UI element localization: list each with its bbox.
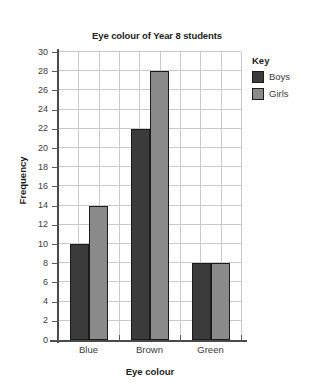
y-axis-tick-label: 10 [24, 240, 48, 249]
legend: Key BoysGirls [252, 55, 310, 105]
legend-label: Boys [269, 71, 290, 83]
y-axis-tick-label: 8 [24, 259, 48, 268]
legend-label: Girls [269, 88, 289, 100]
x-axis-tick-label: Blue [59, 344, 119, 355]
y-axis-tick-label: 0 [24, 336, 48, 345]
x-axis-tick [180, 335, 181, 342]
y-axis-tick [52, 167, 58, 168]
y-axis-tick-label: 24 [24, 105, 48, 114]
y-axis-tick-label: 18 [24, 163, 48, 172]
bar [192, 263, 211, 340]
y-axis-line [57, 49, 59, 343]
y-axis-tick [52, 71, 58, 72]
y-axis-tick [52, 244, 58, 245]
y-axis-tick [52, 282, 58, 283]
y-axis-tick [52, 321, 58, 322]
y-axis-tick [52, 206, 58, 207]
y-axis-tick-label: 4 [24, 297, 48, 306]
bar [150, 71, 169, 340]
plot-area [58, 52, 241, 340]
legend-entries: BoysGirls [252, 71, 310, 100]
y-axis-tick [52, 225, 58, 226]
gridline-vertical [180, 52, 181, 340]
gridline-vertical [241, 52, 242, 340]
x-axis-line [50, 340, 247, 342]
bar-chart-figure: Eye colour of Year 8 students Frequency … [0, 0, 314, 391]
legend-entry: Boys [252, 71, 310, 83]
y-axis-tick-label: 2 [24, 316, 48, 325]
x-axis-tick-label: Green [181, 344, 241, 355]
y-axis-tick [52, 110, 58, 111]
y-axis-tick-label: 30 [24, 48, 48, 57]
y-axis-tick [52, 263, 58, 264]
gridline-horizontal [58, 51, 241, 52]
y-axis-tick-label: 12 [24, 220, 48, 229]
y-axis-tick-label: 26 [24, 86, 48, 95]
y-axis-tick [52, 52, 58, 53]
bar [89, 206, 108, 340]
x-axis-tick-label: Brown [120, 344, 180, 355]
bar [70, 244, 89, 340]
legend-swatch [252, 88, 264, 100]
y-axis-tick-label: 14 [24, 201, 48, 210]
bar [131, 129, 150, 340]
y-axis-tick-label: 20 [24, 144, 48, 153]
chart-title: Eye colour of Year 8 students [62, 30, 252, 41]
legend-entry: Girls [252, 88, 310, 100]
gridline-vertical [119, 52, 120, 340]
x-axis-tick [119, 335, 120, 342]
y-axis-tick-label: 28 [24, 67, 48, 76]
y-axis-tick [52, 90, 58, 91]
y-axis-tick-label: 22 [24, 124, 48, 133]
legend-title: Key [252, 55, 310, 66]
x-axis-tick [241, 335, 242, 342]
x-axis-tick [58, 335, 59, 342]
bar [211, 263, 230, 340]
x-axis-title: Eye colour [58, 366, 242, 377]
y-axis-tick-label: 6 [24, 278, 48, 287]
y-axis-tick [52, 302, 58, 303]
y-axis-tick [52, 186, 58, 187]
y-axis-tick [52, 148, 58, 149]
y-axis-tick-label: 16 [24, 182, 48, 191]
legend-swatch [252, 71, 264, 83]
y-axis-tick [52, 129, 58, 130]
